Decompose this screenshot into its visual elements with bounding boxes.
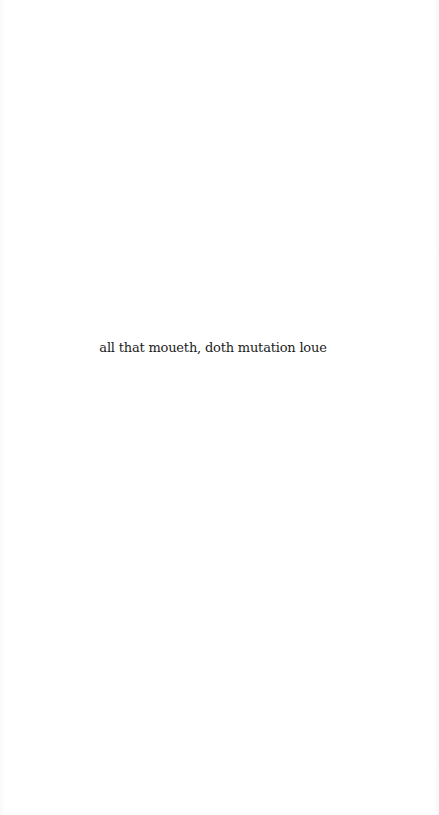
- book-page: all that moueth, doth mutation loue: [0, 0, 439, 815]
- page-edge-left: [0, 0, 6, 815]
- page-edge-right: [433, 0, 439, 815]
- epigraph-text: all that moueth, doth mutation loue: [0, 339, 426, 357]
